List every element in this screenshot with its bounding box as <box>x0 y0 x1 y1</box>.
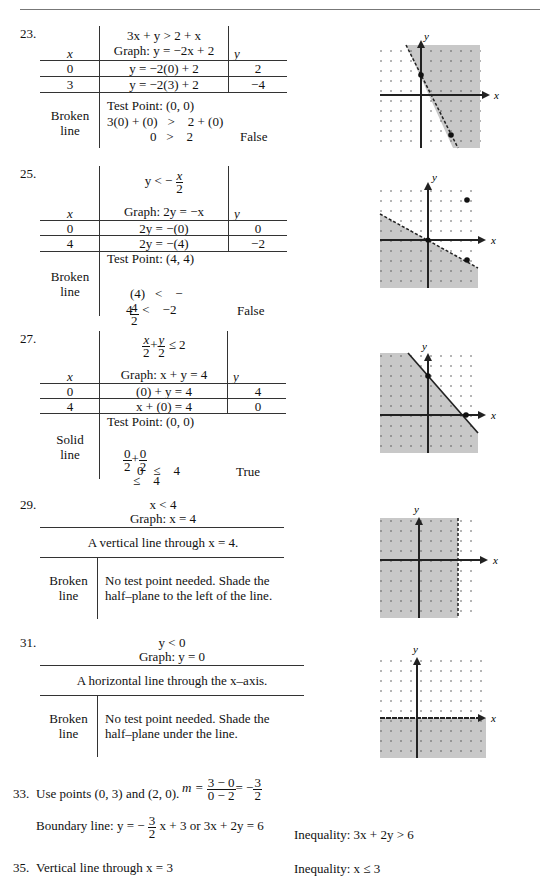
svg-text:y: y <box>421 340 427 352</box>
svg-text:x: x <box>493 89 499 101</box>
svg-text:x: x <box>490 712 496 724</box>
denominator: 0 − 2 <box>207 790 236 802</box>
line-type-word: line <box>40 588 97 603</box>
equals-sign: = − <box>236 780 254 795</box>
boundary-line: Boundary line: y = − 32 x + 3 or 3x + 2y… <box>36 815 264 840</box>
problem-number: 27. <box>20 331 36 347</box>
denominator: 2 <box>158 347 166 359</box>
graph-equation: Graph: x = 4 <box>40 511 286 527</box>
problem-text: Use points (0, 3) and (2, 0). <box>36 786 179 802</box>
line-type-word: Broken <box>40 573 97 588</box>
table-rule <box>40 92 287 93</box>
svg-text:x: x <box>490 409 496 421</box>
table-divider <box>97 695 98 757</box>
line-type-word: line <box>40 447 100 462</box>
test-point: Test Point: (4, 4) <box>107 251 194 267</box>
graph-equation: Graph: y = 0 <box>40 649 304 665</box>
test-result: True <box>236 464 260 480</box>
slope-formula: m = 3 − 00 − 2= −32 <box>182 777 262 802</box>
table-rule <box>40 665 304 666</box>
plus-sign: + <box>150 337 157 352</box>
line-type-word: Broken <box>40 711 97 726</box>
problem-number: 23. <box>20 26 36 42</box>
denominator: 2 <box>123 461 132 473</box>
description: A horizontal line through the x–axis. <box>40 673 304 689</box>
problem-number: 35. <box>13 860 29 876</box>
description: A vertical line through x = 4. <box>40 535 286 551</box>
table-cell-y: −2 <box>228 236 288 252</box>
line-type-word: line <box>40 726 97 741</box>
inequality: 3x + y > 2 + x <box>100 28 228 44</box>
page-top-rule <box>20 9 540 10</box>
table-cell-x: 0 <box>40 61 100 77</box>
graph-equation: Graph: y = −2x + 2 <box>100 43 228 59</box>
test-step-2: 0 ≤ 4 <box>137 463 180 479</box>
table-rule <box>40 557 284 558</box>
boundary-rest: x + 3 or 3x + 2y = 6 <box>160 818 264 833</box>
table-cell-y: −4 <box>228 77 288 93</box>
graph-23: y x <box>370 30 500 155</box>
table-cell-expr: y = −2(0) + 2 <box>100 61 228 77</box>
line-type-word: line <box>40 123 100 138</box>
graph-25: y x <box>370 170 500 295</box>
line-type-word: Broken <box>40 108 100 123</box>
test-point: Test Point: (0, 0) <box>107 98 194 114</box>
table-cell-expr: 2y = −(4) <box>100 236 228 252</box>
svg-text:y: y <box>423 30 429 42</box>
graph-equation: Graph: 2y = −x <box>100 204 228 220</box>
test-result: False <box>237 303 264 319</box>
problem-number: 33. <box>13 786 29 802</box>
test-result: False <box>240 129 267 145</box>
line-type-word: line <box>40 284 100 299</box>
table-cell-x: 4 <box>40 236 100 252</box>
line-type: Broken line <box>40 711 97 741</box>
svg-text:y: y <box>413 503 419 515</box>
svg-text:y: y <box>431 171 437 183</box>
inequality-answer: Inequality: x ≤ 3 <box>294 861 380 877</box>
problem-number: 25. <box>20 166 36 182</box>
line-type: Broken line <box>40 269 100 299</box>
problem-text: Vertical line through x = 3 <box>36 860 173 876</box>
note-line: half–plane under the line. <box>105 726 270 741</box>
line-type: Solid line <box>40 432 100 462</box>
note: No test point needed. Shade the half–pla… <box>105 573 272 603</box>
graph-27: y x <box>370 335 500 460</box>
line-type-word: Broken <box>40 269 100 284</box>
table-cell-x: 3 <box>40 77 100 93</box>
table-cell-expr: y = −2(3) + 2 <box>100 77 228 93</box>
table-rule <box>40 695 304 696</box>
note-line: No test point needed. Shade the <box>105 573 272 588</box>
svg-text:x: x <box>490 234 496 246</box>
graph-31: y x <box>370 640 500 760</box>
table-cell-y: 2 <box>228 61 288 77</box>
line-type-word: Solid <box>40 432 100 447</box>
test-step-1: 3(0) + (0) > 2 + (0) <box>107 114 223 130</box>
table-divider <box>97 557 98 619</box>
test-step-2: 0 > 2 <box>150 129 193 145</box>
note-line: No test point needed. Shade the <box>105 711 270 726</box>
test-step-2: 4 < −2 <box>126 302 176 318</box>
problem-number: 31. <box>20 635 36 651</box>
graph-29: y x <box>370 500 500 620</box>
table-rule <box>40 527 284 528</box>
svg-text:y: y <box>412 643 418 655</box>
note-line: half–plane to the left of the line. <box>105 588 272 603</box>
inequality-answer: Inequality: 3x + 2y > 6 <box>294 827 414 843</box>
slope-label: m = <box>182 780 203 795</box>
inequality: x2+y2 ≤ 2 <box>100 334 228 359</box>
line-type: Broken line <box>40 573 97 603</box>
inequality-lhs: y < − <box>145 173 173 188</box>
graph-equation: Graph: x + y = 4 <box>100 367 228 383</box>
denominator: 2 <box>253 790 262 802</box>
inequality: y < − x2 <box>100 170 228 195</box>
test-point: Test Point: (0, 0) <box>107 414 194 430</box>
step-lhs: (4) < − <box>130 286 183 301</box>
denominator: 2 <box>176 183 184 195</box>
svg-text:x: x <box>492 554 498 566</box>
denominator: 2 <box>148 828 157 840</box>
note: No test point needed. Shade the half–pla… <box>105 711 270 741</box>
boundary-label: Boundary line: y = − <box>36 818 145 833</box>
problem-number: 29. <box>20 497 36 513</box>
line-type: Broken line <box>40 108 100 138</box>
inequality-rhs: ≤ 2 <box>169 337 186 352</box>
